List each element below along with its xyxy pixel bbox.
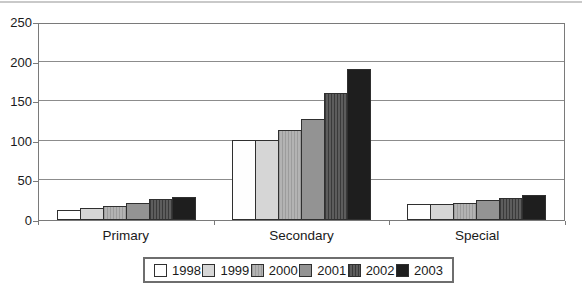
x-axis-tick-3 [565, 221, 566, 225]
y-axis-label-200: 200 [2, 56, 32, 70]
category-label-primary: Primary [38, 228, 214, 243]
legend-swatch-2000 [251, 264, 264, 277]
bar-primary-1999 [80, 208, 104, 220]
bar-group-secondary [214, 24, 389, 220]
bar-special-2001 [476, 200, 500, 220]
bar-special-2002 [499, 198, 523, 220]
bar-secondary-1998 [232, 140, 256, 220]
legend-label-2002: 2002 [366, 263, 395, 278]
y-axis-tick-50 [33, 181, 38, 182]
y-axis-tick-250 [33, 23, 38, 24]
bar-secondary-2002 [324, 93, 348, 220]
bar-secondary-2000 [278, 130, 302, 220]
legend-label-1999: 1999 [220, 263, 249, 278]
y-axis-label-150: 150 [2, 95, 32, 109]
legend-swatch-2001 [299, 264, 312, 277]
legend-entry-1998: 1998 [154, 263, 201, 278]
x-axis-tick-0 [38, 221, 39, 225]
legend-swatch-1998 [154, 264, 167, 277]
x-axis-tick-1 [214, 221, 215, 225]
y-axis-label-50: 50 [2, 174, 32, 188]
bar-groups [39, 24, 564, 220]
legend-entry-2002: 2002 [348, 263, 395, 278]
legend-entry-1999: 1999 [202, 263, 249, 278]
bar-special-1999 [430, 204, 454, 220]
bar-secondary-1999 [255, 140, 279, 220]
y-axis-tick-200 [33, 63, 38, 64]
x-axis-tick-2 [389, 221, 390, 225]
figure-canvas: 050100150200250 PrimarySecondarySpecial … [0, 0, 582, 288]
legend-label-1998: 1998 [172, 263, 201, 278]
legend-entry-2000: 2000 [251, 263, 298, 278]
y-axis-label-250: 250 [2, 16, 32, 30]
bar-group-primary [39, 24, 214, 220]
bar-secondary-2003 [347, 69, 371, 220]
category-label-special: Special [389, 228, 565, 243]
category-axis-labels: PrimarySecondarySpecial [38, 228, 565, 243]
legend-label-2003: 2003 [414, 263, 443, 278]
legend-swatch-2003 [396, 264, 409, 277]
legend-label-2001: 2001 [317, 263, 346, 278]
bar-primary-1998 [57, 210, 81, 220]
bar-chart: 050100150200250 PrimarySecondarySpecial [0, 0, 582, 250]
bar-special-2003 [522, 195, 546, 220]
bar-secondary-2001 [301, 119, 325, 220]
bar-special-1998 [407, 204, 431, 220]
category-label-secondary: Secondary [214, 228, 390, 243]
bar-special-2000 [453, 203, 477, 220]
y-axis-label-0: 0 [2, 214, 32, 228]
plot-area [38, 23, 565, 221]
legend-swatch-2002 [348, 264, 361, 277]
bar-primary-2003 [172, 197, 196, 220]
bar-group-special [389, 24, 564, 220]
legend-entry-2003: 2003 [396, 263, 443, 278]
bar-primary-2000 [103, 206, 127, 220]
y-axis-label-100: 100 [2, 135, 32, 149]
bar-primary-2002 [149, 199, 173, 220]
legend-label-2000: 2000 [269, 263, 298, 278]
legend-swatch-1999 [202, 264, 215, 277]
bar-primary-2001 [126, 203, 150, 220]
legend-entry-2001: 2001 [299, 263, 346, 278]
y-axis-tick-100 [33, 142, 38, 143]
legend: 199819992000200120022003 [143, 257, 454, 283]
y-axis-tick-150 [33, 102, 38, 103]
